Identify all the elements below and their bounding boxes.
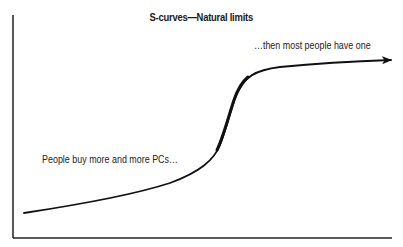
s-curve-diagram: S-curves—Natural limits …then most peopl… — [0, 0, 403, 247]
annotation-growth: People buy more and more PCs… — [42, 153, 178, 165]
diagram-svg — [0, 0, 403, 247]
s-curve-steep-segment — [217, 77, 248, 150]
annotation-plateau: …then most people have one — [254, 39, 371, 51]
s-curve-line — [24, 60, 391, 213]
diagram-title: S-curves—Natural limits — [36, 11, 366, 23]
